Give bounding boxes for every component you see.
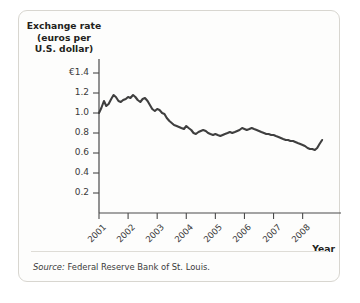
source-label: Source: bbox=[33, 262, 65, 272]
y-tick-label: 0.4 bbox=[47, 167, 89, 177]
source-note: Source: Federal Reserve Bank of St. Loui… bbox=[33, 262, 210, 272]
y-tick-label: €1.4 bbox=[47, 67, 89, 77]
y-tick-label: 1.0 bbox=[47, 107, 89, 117]
figure-panel: Exchange rate (euros per U.S. dollar) Ye… bbox=[18, 10, 340, 282]
y-tick-label: 0.2 bbox=[47, 187, 89, 197]
y-ticks-group bbox=[93, 73, 99, 193]
exchange-rate-line bbox=[99, 95, 322, 150]
y-tick-label: 0.6 bbox=[47, 147, 89, 157]
source-divider bbox=[31, 251, 329, 252]
x-ticks-group bbox=[99, 213, 303, 219]
y-tick-label: 1.2 bbox=[47, 87, 89, 97]
y-tick-label: 0.8 bbox=[47, 127, 89, 137]
source-text: Federal Reserve Bank of St. Louis. bbox=[67, 262, 210, 272]
